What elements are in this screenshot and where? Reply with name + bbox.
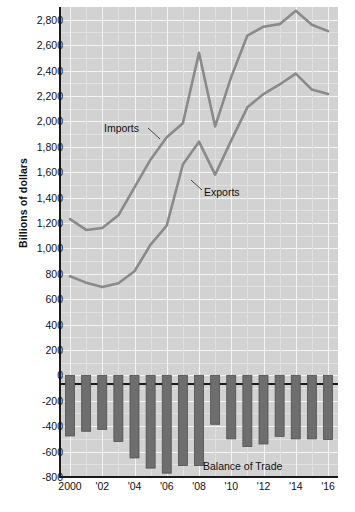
y-axis-tick-label: -400 — [11, 421, 63, 431]
gridline-vertical-minor — [280, 7, 281, 477]
gridline-vertical-minor — [312, 7, 313, 477]
gridline-vertical-minor — [183, 7, 184, 477]
y-axis-tick-label: 600 — [11, 294, 63, 304]
y-axis-tick-label: 2,800 — [11, 15, 63, 25]
gridline-vertical — [167, 7, 168, 477]
gridline-vertical-minor — [151, 7, 152, 477]
balance-of-trade-annotation-label: Balance of Trade — [203, 460, 282, 472]
y-axis-tick-label: -600 — [11, 447, 63, 457]
gridline-vertical — [231, 7, 232, 477]
x-axis-line — [59, 476, 338, 478]
y-axis-tick-label: 1,000 — [11, 243, 63, 253]
imports-annotation-label: Imports — [104, 122, 139, 134]
y-axis-tick-label: 800 — [11, 269, 63, 279]
y-axis-tick-label: 2,600 — [11, 40, 63, 50]
x-axis-tick-label: '16 — [308, 481, 348, 492]
gridline-vertical-minor — [247, 7, 248, 477]
gridline-vertical — [70, 7, 71, 477]
y-axis-tick-label: 1,800 — [11, 142, 63, 152]
y-axis-tick-label: 2,000 — [11, 116, 63, 126]
gridline-vertical — [264, 7, 265, 477]
gridline-vertical-minor — [215, 7, 216, 477]
chart-figure: Billions of dollars 2,8002,6002,4002,200… — [0, 0, 355, 512]
exports-annotation-label: Exports — [204, 186, 240, 198]
gridline-vertical — [102, 7, 103, 477]
y-axis-tick-label: 1,200 — [11, 218, 63, 228]
y-axis-tick-label: 0 — [11, 370, 63, 380]
y-axis-tick-label: -200 — [11, 396, 63, 406]
gridline-vertical — [135, 7, 136, 477]
y-axis-tick-label: 2,400 — [11, 66, 63, 76]
gridline-vertical-minor — [118, 7, 119, 477]
y-axis-tick-label: 400 — [11, 320, 63, 330]
y-axis-tick-label: 1,400 — [11, 193, 63, 203]
y-axis-tick-label: 2,200 — [11, 91, 63, 101]
gridline-vertical-minor — [86, 7, 87, 477]
y-axis-tick-label: 1,600 — [11, 167, 63, 177]
y-axis-tick-label: 200 — [11, 345, 63, 355]
plot-area — [60, 7, 338, 477]
gridline-vertical — [328, 7, 329, 477]
gridline-vertical — [199, 7, 200, 477]
zero-baseline — [60, 383, 338, 385]
gridline-vertical — [296, 7, 297, 477]
